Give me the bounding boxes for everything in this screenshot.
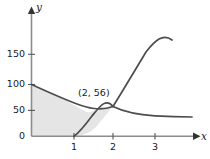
y-tick-label-150: 150 bbox=[0, 49, 25, 59]
x-axis-label: x bbox=[201, 131, 207, 142]
y-tick-label-100: 100 bbox=[0, 79, 25, 89]
y-axis-label: y bbox=[36, 2, 42, 13]
y-tick-label-0: 0 bbox=[0, 131, 25, 141]
intersection-point-label: (2, 56) bbox=[78, 88, 110, 98]
y-axis-arrowhead bbox=[28, 7, 35, 15]
plot-canvas bbox=[0, 0, 210, 159]
y-tick-label-50: 50 bbox=[0, 105, 25, 115]
x-tick-label-2: 2 bbox=[103, 142, 123, 152]
x-tick-label-3: 3 bbox=[145, 142, 165, 152]
chart-figure: 150 100 50 0 1 2 3 y x (2, 56) bbox=[0, 0, 210, 159]
x-tick-label-1: 1 bbox=[64, 142, 84, 152]
x-axis-arrowhead bbox=[193, 133, 201, 140]
